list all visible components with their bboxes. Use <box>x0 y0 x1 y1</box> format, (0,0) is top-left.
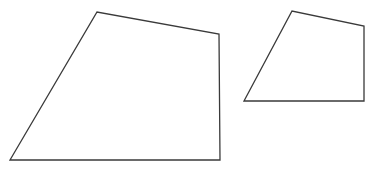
figure-canvas <box>0 0 376 170</box>
canvas-background <box>0 0 376 170</box>
quadrilaterals-diagram <box>0 0 376 170</box>
